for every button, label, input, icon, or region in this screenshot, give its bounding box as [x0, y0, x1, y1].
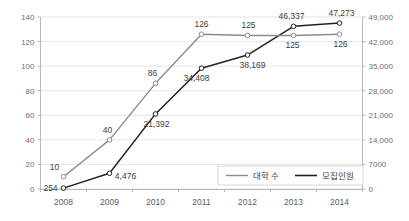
data-point-marker — [107, 171, 112, 176]
x-axis-tick-label-2012: 2012 — [238, 197, 257, 207]
left-axis-tick-label: 120 — [21, 38, 35, 47]
left-axis-tick-label: 80 — [26, 87, 35, 96]
data-point-marker — [153, 112, 158, 117]
data-label-quota: 34,408 — [184, 73, 210, 83]
data-point-marker — [337, 32, 342, 37]
left-axis-tick-label: 40 — [26, 136, 35, 145]
data-point-marker — [61, 186, 66, 191]
left-axis-tick-label: 20 — [26, 160, 35, 169]
data-label-universities: 125 — [285, 40, 299, 50]
x-axis-tick-label-2009: 2009 — [100, 197, 119, 207]
data-label-quota: 21,392 — [144, 119, 170, 129]
data-label-quota: 4,476 — [115, 171, 137, 181]
right-axis-tick-label: 7000 — [369, 160, 387, 169]
left-axis-tick-label: 100 — [21, 62, 35, 71]
chart-legend: 대학 수모집인원 — [218, 166, 363, 185]
data-point-marker — [107, 138, 112, 143]
data-point-marker — [337, 21, 342, 26]
x-axis-tick-label-2013: 2013 — [284, 197, 303, 207]
left-axis-tick-label: 140 — [21, 13, 35, 22]
right-axis-tick-label: 49,000 — [369, 13, 394, 22]
data-label-universities: 40 — [103, 125, 113, 135]
data-point-marker — [245, 33, 250, 38]
right-axis-tick-label: 21,000 — [369, 111, 394, 120]
left-axis-tick-label: 60 — [26, 111, 35, 120]
x-axis-tick-label-2011: 2011 — [192, 197, 211, 207]
chart-container: 020406080100120140 0700014,00021,00028,0… — [0, 0, 409, 221]
legend-item-quota-label: 모집인원 — [322, 171, 354, 181]
right-axis-tick-label: 42,000 — [369, 38, 394, 47]
data-label-universities: 86 — [148, 68, 158, 78]
right-axis-tick-label: 14,000 — [369, 136, 394, 145]
right-axis-tick-label: 0 — [369, 185, 374, 194]
data-point-marker — [199, 32, 204, 37]
left-axis-tick-label: 0 — [30, 185, 35, 194]
x-axis-tick-label-2014: 2014 — [330, 197, 349, 207]
data-label-quota: 254 — [43, 183, 57, 193]
data-point-marker — [245, 53, 250, 58]
data-point-marker — [153, 81, 158, 86]
data-label-quota: 38,169 — [240, 60, 266, 70]
data-label-universities: 126 — [194, 19, 208, 29]
data-label-quota: 46,337 — [279, 11, 305, 21]
right-axis-tick-label: 28,000 — [369, 87, 394, 96]
x-axis-tick-label-2008: 2008 — [54, 197, 73, 207]
data-point-marker — [291, 33, 296, 38]
line-chart: 020406080100120140 0700014,00021,00028,0… — [0, 0, 409, 221]
legend-item-universities-label: 대학 수 — [253, 171, 279, 181]
right-axis-tick-label: 35,000 — [369, 62, 394, 71]
data-point-marker — [199, 66, 204, 71]
data-label-universities: 125 — [241, 20, 255, 30]
data-point-marker — [291, 24, 296, 29]
data-label-universities: 10 — [50, 162, 60, 172]
data-point-marker — [61, 174, 66, 179]
data-label-quota: 47,273 — [329, 8, 355, 18]
x-axis-tick-label-2010: 2010 — [146, 197, 165, 207]
data-label-universities: 126 — [333, 39, 347, 49]
